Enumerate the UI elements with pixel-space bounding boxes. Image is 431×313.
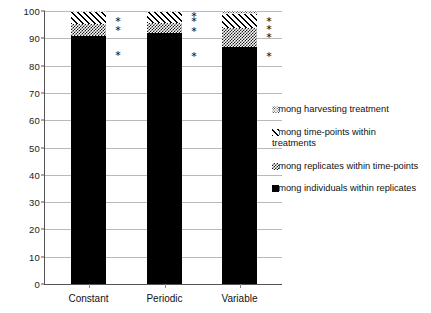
bar-segment-constant-dots[interactable] <box>71 11 106 12</box>
y-tick-mark-30 <box>41 202 45 203</box>
bar-segment-constant-hatch[interactable] <box>71 12 106 24</box>
bar-constant[interactable]: Constant <box>71 11 106 284</box>
bar-segment-periodic-solid[interactable] <box>147 33 182 284</box>
bar-periodic[interactable]: Periodic <box>147 11 182 284</box>
y-tick-label-30: 30 <box>29 197 40 208</box>
y-tick-mark-60 <box>41 120 45 121</box>
legend-swatch-checker-icon <box>272 163 279 170</box>
bar-segment-variable-dots[interactable] <box>222 11 257 14</box>
y-tick-mark-80 <box>41 65 45 66</box>
y-tick-mark-20 <box>41 229 45 230</box>
significance-asterisk-constant-2: * <box>115 25 121 36</box>
bar-segment-periodic-dots[interactable] <box>147 11 182 12</box>
bar-segment-periodic-hatch[interactable] <box>147 12 182 23</box>
x-tick-mark-periodic <box>165 284 166 288</box>
significance-asterisk-constant-3: * <box>115 49 121 60</box>
bar-variable[interactable]: Variable <box>222 11 257 284</box>
legend-item-3[interactable]: Among individuals within replicates <box>272 183 430 195</box>
legend-item-0[interactable]: Among harvesting treatment <box>272 104 430 116</box>
bar-segment-constant-solid[interactable] <box>71 36 106 284</box>
chart-legend: Among harvesting treatmentAmong time-poi… <box>272 104 430 206</box>
y-tick-label-70: 70 <box>29 87 40 98</box>
y-tick-mark-50 <box>41 147 45 148</box>
y-tick-label-0: 0 <box>35 279 40 290</box>
y-tick-label-20: 20 <box>29 224 40 235</box>
legend-label-2: Among replicates within time-points <box>272 161 418 173</box>
y-tick-mark-100 <box>41 11 45 12</box>
y-tick-mark-10 <box>41 256 45 257</box>
significance-asterisk-variable-3: * <box>266 31 272 42</box>
legend-item-2[interactable]: Among replicates within time-points <box>272 161 430 173</box>
x-axis-label-variable: Variable <box>222 293 258 304</box>
x-axis-label-constant: Constant <box>68 293 108 304</box>
y-tick-mark-70 <box>41 92 45 93</box>
bar-segment-constant-checker[interactable] <box>71 24 106 35</box>
significance-asterisk-variable-4: * <box>266 51 272 62</box>
y-tick-mark-0 <box>41 284 45 285</box>
bar-segment-variable-solid[interactable] <box>222 47 257 285</box>
y-tick-label-80: 80 <box>29 60 40 71</box>
significance-asterisk-periodic-4: * <box>191 51 197 62</box>
x-tick-mark-variable <box>240 284 241 288</box>
legend-label-1: Among time-points within treatments <box>272 127 376 150</box>
legend-label-3: Among individuals within replicates <box>272 183 416 195</box>
legend-label-0: Among harvesting treatment <box>272 104 389 116</box>
x-axis-label-periodic: Periodic <box>146 293 182 304</box>
y-tick-label-40: 40 <box>29 169 40 180</box>
legend-swatch-hatch-icon <box>272 129 279 136</box>
legend-swatch-solid-icon <box>272 185 279 192</box>
bar-segment-variable-hatch[interactable] <box>222 14 257 29</box>
significance-asterisk-periodic-3: * <box>191 26 197 37</box>
y-tick-label-10: 10 <box>29 251 40 262</box>
bar-segment-periodic-checker[interactable] <box>147 23 182 33</box>
y-tick-label-50: 50 <box>29 142 40 153</box>
y-tick-label-100: 100 <box>24 6 40 17</box>
plot-area: 0102030405060708090100 ConstantPeriodicV… <box>44 11 282 285</box>
y-tick-label-90: 90 <box>29 33 40 44</box>
legend-swatch-dots-icon <box>272 106 279 113</box>
y-tick-mark-40 <box>41 174 45 175</box>
variance-components-stacked-bar-chart: 0102030405060708090100 ConstantPeriodicV… <box>0 0 431 313</box>
gridline-0 <box>45 284 282 285</box>
bar-segment-variable-checker[interactable] <box>222 28 257 46</box>
y-tick-label-60: 60 <box>29 115 40 126</box>
x-tick-mark-constant <box>89 284 90 288</box>
legend-item-1[interactable]: Among time-points within treatments <box>272 127 430 150</box>
y-tick-mark-90 <box>41 38 45 39</box>
